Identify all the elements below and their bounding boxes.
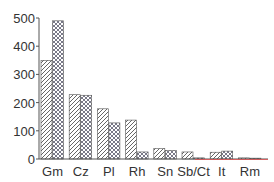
bars xyxy=(41,21,261,159)
x-category-label: Sn xyxy=(157,164,173,179)
bar xyxy=(109,123,120,159)
x-category-label: Rh xyxy=(129,164,146,179)
bar-chart: 0100200300400500 GmCzPlRhSnSb/CtItRm xyxy=(0,0,274,182)
y-tick-label: 200 xyxy=(13,96,35,111)
x-category-label: Sb/Ct xyxy=(177,164,210,179)
bar xyxy=(81,95,92,159)
y-tick-label: 500 xyxy=(13,11,35,26)
bar xyxy=(182,152,193,159)
bar xyxy=(53,21,64,159)
bar-group-cz xyxy=(69,95,92,159)
bar-group-sb-ct xyxy=(182,152,205,159)
bar xyxy=(41,60,52,159)
y-tick-label: 300 xyxy=(13,67,35,82)
x-category-label: Cz xyxy=(73,164,89,179)
bar-group-pl xyxy=(97,109,120,159)
x-category-label: It xyxy=(218,164,226,179)
x-category-label: Rm xyxy=(240,164,260,179)
bar-group-it xyxy=(210,151,233,159)
bar xyxy=(210,152,221,159)
x-axis: GmCzPlRhSnSb/CtItRm xyxy=(39,159,268,179)
x-category-label: Gm xyxy=(42,164,63,179)
y-tick-label: 400 xyxy=(13,39,35,54)
bar xyxy=(222,151,233,159)
bar-group-gm xyxy=(41,21,64,159)
y-axis: 0100200300400500 xyxy=(13,11,39,167)
bar xyxy=(137,152,148,159)
bar xyxy=(154,149,165,159)
y-tick-label: 100 xyxy=(13,124,35,139)
bar-group-sn xyxy=(154,149,177,159)
bar xyxy=(126,120,137,159)
bar xyxy=(165,151,176,159)
y-tick-label: 0 xyxy=(28,152,35,167)
bar xyxy=(97,109,108,159)
x-category-label: Pl xyxy=(103,164,115,179)
bar-group-rh xyxy=(126,120,149,159)
bar xyxy=(69,95,80,159)
